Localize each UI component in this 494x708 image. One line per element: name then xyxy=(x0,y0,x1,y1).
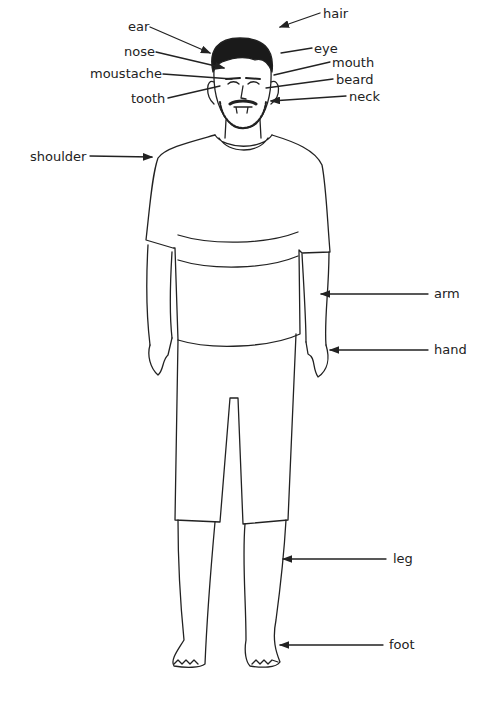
label-leg: leg xyxy=(393,552,413,565)
right-hand xyxy=(306,342,328,377)
left-hand xyxy=(149,338,172,375)
label-neck: neck xyxy=(349,90,380,103)
beard-shape xyxy=(220,102,266,128)
left-leg xyxy=(173,520,215,667)
label-shoulder: shoulder xyxy=(30,150,86,163)
tshirt xyxy=(146,135,330,346)
left-arm xyxy=(147,245,172,345)
body-illustration xyxy=(0,0,494,708)
shorts xyxy=(175,334,296,524)
right-arm xyxy=(302,252,329,345)
label-moustache: moustache xyxy=(90,67,162,80)
label-eye: eye xyxy=(314,42,338,55)
label-hair: hair xyxy=(323,7,348,20)
label-mouth: mouth xyxy=(332,56,374,69)
label-foot: foot xyxy=(389,638,415,651)
left-ear xyxy=(208,81,214,104)
label-arm: arm xyxy=(434,287,460,300)
label-tooth: tooth xyxy=(131,92,165,105)
label-ear: ear xyxy=(128,20,149,33)
label-beard: beard xyxy=(336,73,374,86)
label-hand: hand xyxy=(434,343,467,356)
label-nose: nose xyxy=(124,45,155,58)
